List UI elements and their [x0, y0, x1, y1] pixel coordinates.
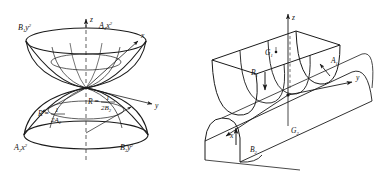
radius-a2-denominator: 2A2 [51, 116, 62, 125]
svg-text:B2: B2 [250, 145, 258, 155]
radius-formula-a2: R = 1 2A2 [37, 106, 65, 125]
right-y-axis-label: y [355, 73, 360, 82]
curve-label-b1y2: B1y2 [18, 23, 32, 33]
right-z-axis-label: z [291, 13, 295, 22]
arrow-label-b2: B2 [250, 145, 258, 155]
curve-label-a1x2: A1x2 [98, 21, 113, 31]
svg-text:B1y2: B1y2 [18, 23, 32, 33]
curve-label-b2y2: B2y2 [120, 143, 134, 153]
right-panel: z y x G1 [205, 13, 373, 170]
svg-text:A1x2: A1x2 [98, 21, 113, 31]
radius-a2-lhs: R [37, 109, 43, 118]
g1-point-marker [275, 51, 278, 54]
svg-text:G2: G2 [291, 126, 299, 136]
point-label-g1: G1 [265, 48, 273, 58]
label-a1-sub: 1 [336, 61, 338, 66]
left-panel-curve-labels: B1y2 A1x2 A2x2 B2y2 [13, 21, 134, 153]
radius-b2-lhs: R [87, 97, 93, 106]
radius-b2-den-sub: 2 [109, 108, 112, 113]
point-label-g2: G2 [291, 126, 299, 136]
label-g2-sub: 2 [296, 131, 299, 136]
left-y-axis-label: y [154, 101, 159, 110]
radius-b2-numerator: 1 [106, 94, 110, 102]
lower-paraboloid-surface [24, 88, 148, 149]
figure-root: z x y [0, 0, 376, 173]
radius-a2-equals: = [44, 109, 49, 118]
arrow-label-b1: B1 [251, 68, 258, 78]
right-panel-labels: G1 G2 A1 B1 B2 [250, 48, 338, 155]
right-x-axis-label: x [229, 131, 234, 140]
arrow-label-a1: A1 [330, 56, 338, 66]
right-z-axis: z [288, 13, 295, 95]
label-a1x2-sup: 2 [110, 21, 113, 26]
svg-text:A2x2: A2x2 [13, 143, 28, 153]
svg-text:G1: G1 [265, 48, 273, 58]
radius-b2-equals: = [94, 97, 99, 106]
label-b1y2-sup: 2 [29, 23, 32, 28]
svg-text:A1: A1 [330, 56, 338, 66]
radius-a2-numerator: 1 [55, 106, 59, 114]
svg-text:B2y2: B2y2 [120, 143, 134, 153]
svg-text:B1: B1 [251, 68, 258, 78]
right-panel-annotation-arrows [236, 47, 330, 145]
curve-label-a2x2: A2x2 [13, 143, 28, 153]
left-panel: z x y [13, 15, 159, 160]
radius-b2-denominator: 2B2 [101, 104, 112, 113]
label-a2x2-sup: 2 [25, 143, 28, 148]
figure-canvas: z x y [0, 0, 376, 173]
left-z-axis-label: z [89, 15, 93, 24]
label-b1-sub: 1 [256, 73, 258, 78]
label-g1-sub: 1 [270, 53, 272, 58]
a1-arrow [320, 64, 330, 76]
lower-trough-surface [205, 54, 373, 170]
